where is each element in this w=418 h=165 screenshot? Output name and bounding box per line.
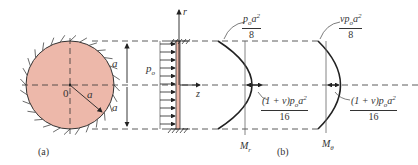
plate-section	[160, 10, 200, 133]
axis-r-label: r	[183, 7, 187, 17]
pressure-label: po	[146, 63, 155, 77]
center-label: 0	[63, 88, 69, 99]
mtheta-center-value: (1 + ν)poa2 16	[350, 95, 397, 122]
radius-label: a	[87, 89, 93, 100]
mr-edge-value: poa2 8	[242, 13, 261, 40]
mr-label: Mr	[240, 141, 251, 154]
mr-center-value: (1 + ν)poa2 16	[261, 95, 308, 122]
dim-top-label: a	[112, 58, 118, 69]
mtheta-label: Mθ	[322, 139, 334, 152]
axis-z-label: z	[196, 89, 200, 99]
mtheta-edge-value: νpoa2 8	[339, 13, 362, 40]
panel-a-label: (a)	[38, 147, 49, 157]
panel-b-label: (b)	[277, 147, 289, 157]
dim-bottom-label: a	[112, 102, 118, 113]
